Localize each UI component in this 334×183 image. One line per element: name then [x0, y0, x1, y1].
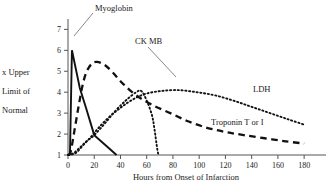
x-tick-label-20: 20 — [90, 161, 98, 170]
x-tick-label-80: 80 — [169, 161, 177, 170]
x-tick-label-40: 40 — [116, 161, 124, 170]
y-axis-label-line-3: Normal — [2, 105, 29, 115]
x-axis-title: Hours from Onset of Infarction — [133, 172, 240, 182]
series-curve-ck-mb — [68, 90, 159, 155]
x-tick-label-180: 180 — [298, 161, 310, 170]
series-label-ldh: LDH — [253, 84, 270, 94]
y-tick-label-7: 7 — [57, 25, 61, 34]
y-tick-label-5: 5 — [57, 67, 61, 76]
x-tick-label-140: 140 — [246, 161, 258, 170]
leader-line-myoglobin — [74, 13, 93, 36]
y-axis-label-line-2: Limit of — [2, 86, 30, 96]
x-tick-label-0: 0 — [66, 161, 70, 170]
chart-svg: x Upper Limit of Normal 1234567 02040608… — [0, 0, 334, 183]
series-curve-ldh — [68, 90, 304, 155]
y-tick-label-4: 4 — [57, 88, 61, 97]
leader-line-ck-mb — [148, 47, 176, 77]
y-tick-label-3: 3 — [57, 109, 61, 118]
x-tick-label-100: 100 — [193, 161, 205, 170]
y-tick-label-1: 1 — [57, 151, 61, 160]
y-axis-label-line-1: x Upper — [2, 67, 30, 77]
x-axis: 020406080100120140160180 — [66, 155, 326, 170]
x-tick-label-120: 120 — [219, 161, 231, 170]
y-axis-label-block: x Upper Limit of Normal — [2, 67, 30, 115]
y-tick-label-2: 2 — [57, 130, 61, 139]
x-tick-label-160: 160 — [272, 161, 284, 170]
x-tick-label-60: 60 — [143, 161, 151, 170]
series-curve-myoglobin — [68, 50, 117, 155]
series-layer — [68, 50, 304, 155]
annotation-layer: MyoglobinCK MBLDHTroponin T or I — [74, 3, 270, 127]
cardiac-marker-chart: x Upper Limit of Normal 1234567 02040608… — [0, 0, 334, 183]
series-label-myoglobin: Myoglobin — [95, 3, 134, 13]
series-label-ck-mb: CK MB — [135, 36, 162, 46]
series-curve-troponin-t-or-i — [68, 62, 304, 155]
series-label-troponin-t-or-i: Troponin T or I — [211, 117, 264, 127]
y-tick-label-6: 6 — [57, 46, 61, 55]
y-axis: 1234567 — [57, 19, 68, 160]
